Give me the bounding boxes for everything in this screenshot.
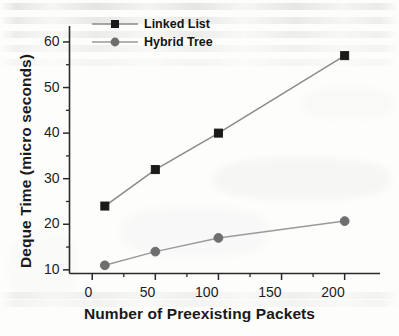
y-axis-title: Deque Time (micro seconds) xyxy=(17,31,35,291)
y-tick-label: 30 xyxy=(44,170,60,186)
x-axis-title: Number of Preexisting Packets xyxy=(0,305,399,323)
legend-marker-circle xyxy=(111,38,120,47)
y-tick-label: 10 xyxy=(44,261,60,277)
data-point xyxy=(214,129,222,137)
data-point xyxy=(340,217,349,226)
y-tick-label: 50 xyxy=(44,79,60,95)
legend-label-hybrid-tree: Hybrid Tree xyxy=(144,35,213,49)
figure-canvas: Number of Preexisting Packets Deque Time… xyxy=(0,0,399,336)
y-axis-ticks xyxy=(63,42,70,270)
y-tick-label: 20 xyxy=(44,215,60,231)
series-linked-list xyxy=(101,52,349,210)
legend-marker-square xyxy=(111,20,119,28)
legend-label-linked-list: Linked List xyxy=(144,17,210,31)
legend xyxy=(92,20,138,46)
y-tick-label: 40 xyxy=(44,124,60,140)
x-axis-ticks xyxy=(92,274,344,281)
data-point xyxy=(151,247,160,256)
series-hybrid-tree xyxy=(100,217,349,270)
data-point xyxy=(341,52,349,60)
data-point xyxy=(100,261,109,270)
y-tick-label: 60 xyxy=(44,33,60,49)
data-point xyxy=(101,202,109,210)
data-point xyxy=(214,234,223,243)
data-point xyxy=(151,166,159,174)
